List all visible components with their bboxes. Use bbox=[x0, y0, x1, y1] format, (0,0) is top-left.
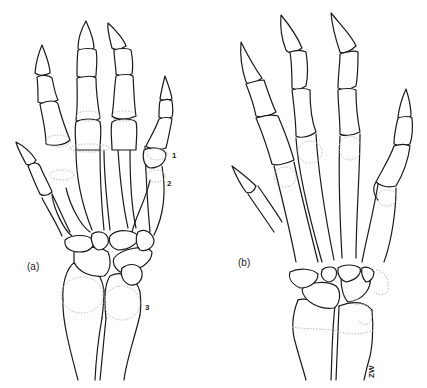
marker-2: 2 bbox=[167, 179, 172, 188]
metacarpal-4-b bbox=[362, 184, 396, 262]
marker-3: 3 bbox=[145, 303, 150, 312]
distal-phalanx-f2-a bbox=[78, 21, 94, 51]
proximal-phalanx-f4-b bbox=[376, 145, 410, 187]
carpal-pisiform-a bbox=[121, 265, 142, 286]
carpal-trapezium-a bbox=[65, 236, 94, 253]
distal-phalanx-f3-b bbox=[331, 13, 356, 53]
middle-phalanx-f1-a bbox=[37, 75, 58, 103]
panel-label-b: (b) bbox=[238, 257, 250, 268]
ossification-carpal-b bbox=[374, 270, 388, 295]
metacarpal-head-f3-a bbox=[111, 119, 137, 150]
metacarpal-2-a bbox=[52, 188, 90, 236]
panel-label-a: (a) bbox=[27, 261, 39, 272]
distal-phalanx-f4-a bbox=[160, 76, 172, 101]
ossification-3-b bbox=[339, 136, 361, 160]
carpal-hamate-a bbox=[136, 230, 154, 250]
carpal-hamate-b bbox=[362, 267, 374, 282]
middle-phalanx-f1-b bbox=[246, 80, 276, 117]
thumb-proximal-b bbox=[248, 186, 282, 232]
metacarpal-3-a bbox=[76, 150, 104, 230]
carpal-capitate-a bbox=[109, 231, 138, 250]
middle-phalanx-f4-a bbox=[159, 100, 173, 119]
ossification-thumb-a bbox=[50, 170, 74, 180]
proximal-phalanx-f3-a bbox=[112, 75, 136, 120]
proximal-phalanx-f3-b bbox=[338, 89, 360, 136]
middle-phalanx-f2-a bbox=[77, 49, 97, 78]
radius-epiphysis-a bbox=[61, 277, 103, 313]
distal-phalanx-f3-a bbox=[108, 23, 126, 49]
ulna-outer-a bbox=[124, 315, 140, 380]
hand-skeleton-diagram: (a) 1 2 3 bbox=[0, 0, 427, 388]
carpal-trapezoid-a bbox=[91, 232, 108, 250]
middle-phalanx-f3-b bbox=[338, 51, 358, 89]
metacarpal-head-f2-a bbox=[75, 119, 101, 150]
distal-phalanx-f1-b bbox=[241, 42, 262, 83]
proximal-phalanx-f1-a bbox=[40, 101, 70, 145]
middle-phalanx-f3-a bbox=[114, 49, 133, 76]
ossification-4-b bbox=[377, 190, 397, 206]
proximal-phalanx-f2-a bbox=[76, 77, 100, 123]
distal-phalanx-f4-b bbox=[398, 89, 411, 118]
metacarpal-3-b bbox=[339, 134, 360, 258]
panel-b-hand: (b) ZW bbox=[232, 13, 412, 380]
artist-signature: ZW bbox=[367, 365, 376, 378]
distal-phalanx-thumb-a bbox=[16, 142, 36, 165]
radius-inner-b bbox=[331, 306, 335, 380]
panel-a-hand: (a) 1 2 3 bbox=[16, 21, 177, 380]
metacarpal-4-a bbox=[104, 150, 128, 230]
distal-phalanx-f2-b bbox=[281, 15, 302, 52]
middle-phalanx-f2-b bbox=[290, 51, 308, 90]
proximal-phalanx-f4-a bbox=[146, 118, 172, 150]
distal-phalanx-f1-a bbox=[35, 45, 50, 75]
proximal-phalanx-thumb-a bbox=[28, 163, 52, 195]
carpal-trapezoid-b bbox=[321, 267, 336, 282]
distal-phalanx-thumb-b bbox=[232, 166, 256, 193]
middle-phalanx-f4-b bbox=[394, 117, 412, 146]
radius-b bbox=[293, 300, 306, 380]
metacarpal-head-f4-a bbox=[143, 148, 166, 168]
ulna-inner-b bbox=[336, 306, 339, 380]
proximal-phalanx-f1-b bbox=[256, 115, 294, 165]
proximal-phalanx-f2-b bbox=[292, 89, 316, 138]
marker-1: 1 bbox=[172, 151, 177, 160]
ulna-epiphysis-a bbox=[104, 286, 140, 320]
